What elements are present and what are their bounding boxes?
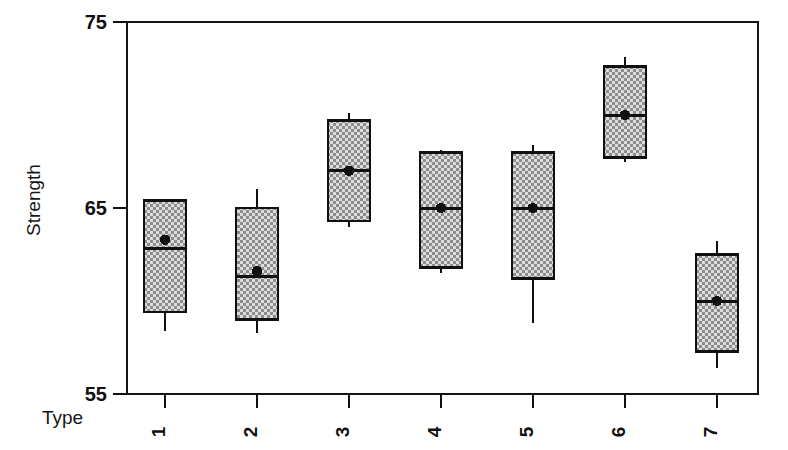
mean-marker [712, 296, 722, 306]
mean-marker [436, 203, 446, 213]
mean-marker [620, 110, 630, 120]
box-body [512, 152, 554, 278]
x-tick-label: 1 [148, 426, 169, 437]
box-plot-item [328, 113, 370, 226]
box-plot-item [144, 201, 186, 331]
y-tick-label: 65 [85, 197, 107, 219]
y-axis-title: Strength [23, 164, 44, 236]
x-tick-label: 2 [240, 427, 261, 438]
x-axis-title-text: Type [42, 407, 83, 428]
x-tick-label: 6 [608, 427, 629, 438]
y-tick-label: 55 [85, 383, 107, 405]
box-plot-item [604, 57, 646, 161]
box-body [236, 208, 278, 320]
box-body [144, 201, 186, 313]
y-axis-title-text: Strength [23, 164, 44, 236]
x-tick-label: 7 [700, 427, 721, 438]
y-axis-ticks: 556575 [85, 11, 127, 405]
boxplot-svg: 556575 Strength Type 1234567 [0, 0, 788, 450]
box-plot-item [420, 150, 462, 273]
x-axis-ticks: 1234567 [148, 394, 721, 437]
mean-marker [344, 166, 354, 176]
box-plot-item [512, 145, 554, 324]
x-tick-label: 3 [332, 427, 353, 438]
box-plot-item [236, 189, 278, 332]
y-tick-label: 75 [85, 11, 107, 33]
mean-marker [160, 234, 170, 244]
box-plot-item [696, 241, 738, 367]
box-series [144, 57, 738, 368]
mean-marker [252, 266, 262, 276]
x-tick-label: 4 [424, 426, 445, 437]
mean-marker [528, 203, 538, 213]
x-tick-label: 5 [516, 426, 537, 437]
boxplot-figure: 556575 Strength Type 1234567 [0, 0, 788, 450]
